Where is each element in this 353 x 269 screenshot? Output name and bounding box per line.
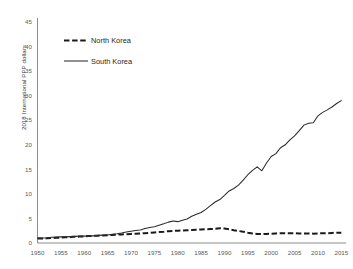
x-tick-1955: 1955 bbox=[54, 249, 68, 256]
x-tick-1975: 1975 bbox=[147, 249, 161, 256]
legend-entry-north-korea: North Korea bbox=[64, 36, 132, 45]
legend-label: South Korea bbox=[91, 57, 133, 66]
chart-legend: North KoreaSouth Korea bbox=[64, 36, 133, 65]
x-tick-1960: 1960 bbox=[77, 249, 91, 256]
x-tick-1995: 1995 bbox=[241, 249, 255, 256]
legend-entry-south-korea: South Korea bbox=[64, 57, 133, 66]
y-tick-45: 45 bbox=[25, 18, 32, 25]
y-tick-5: 5 bbox=[29, 215, 33, 222]
legend-label: North Korea bbox=[91, 36, 132, 45]
y-tick-10: 10 bbox=[25, 190, 32, 197]
x-tick-1990: 1990 bbox=[218, 249, 232, 256]
y-tick-15: 15 bbox=[25, 166, 32, 173]
x-tick-1980: 1980 bbox=[171, 249, 185, 256]
x-axis-tick-labels: 1950195519601965197019751980198519901995… bbox=[31, 249, 349, 256]
x-tick-2005: 2005 bbox=[288, 249, 302, 256]
y-tick-35: 35 bbox=[25, 67, 32, 74]
x-tick-1950: 1950 bbox=[31, 249, 45, 256]
y-tick-25: 25 bbox=[25, 116, 32, 123]
y-axis-tick-labels: 051015202530354045 bbox=[25, 18, 32, 246]
y-tick-30: 30 bbox=[25, 92, 32, 99]
gdp-per-capita-line-chart: 2018 International PPP dollars 051015202… bbox=[0, 0, 353, 269]
x-tick-1970: 1970 bbox=[124, 249, 138, 256]
y-tick-40: 40 bbox=[25, 43, 32, 50]
y-tick-0: 0 bbox=[29, 239, 33, 246]
series-line-south-korea bbox=[38, 101, 342, 239]
plot-area: 051015202530354045 195019551960196519701… bbox=[0, 0, 353, 269]
y-tick-20: 20 bbox=[25, 141, 32, 148]
x-tick-1985: 1985 bbox=[194, 249, 208, 256]
x-tick-2000: 2000 bbox=[264, 249, 278, 256]
x-tick-2010: 2010 bbox=[311, 249, 325, 256]
series-line-north-korea bbox=[38, 228, 342, 238]
x-tick-1965: 1965 bbox=[101, 249, 115, 256]
x-tick-2015: 2015 bbox=[334, 249, 348, 256]
